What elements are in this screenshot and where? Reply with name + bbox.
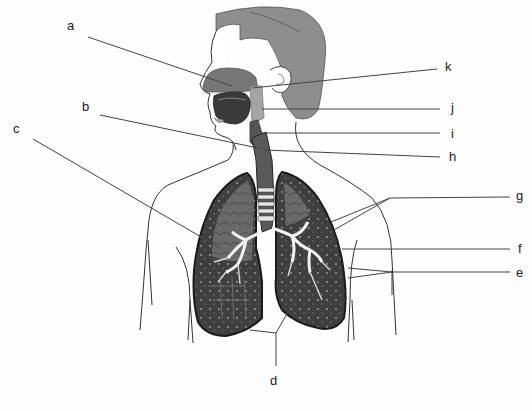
label-a: a bbox=[67, 19, 74, 33]
right-lung bbox=[272, 172, 346, 329]
label-d: d bbox=[270, 374, 277, 388]
head bbox=[200, 7, 326, 150]
label-g: g bbox=[516, 189, 523, 203]
label-i: i bbox=[451, 127, 454, 141]
label-k: k bbox=[445, 60, 452, 74]
label-h: h bbox=[449, 150, 456, 164]
label-c: c bbox=[13, 122, 20, 136]
left-lung bbox=[194, 173, 263, 336]
label-e: e bbox=[516, 266, 523, 280]
label-b: b bbox=[82, 100, 89, 114]
respiratory-diagram: a b c d e f g h i j k bbox=[0, 0, 532, 411]
label-j: j bbox=[451, 101, 454, 115]
anatomy-illustration bbox=[0, 0, 532, 411]
label-f: f bbox=[518, 242, 522, 256]
